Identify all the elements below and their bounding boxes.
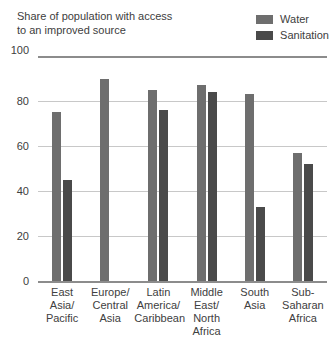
y-axis-tick-20: 20 [17, 230, 29, 242]
x-axis-label: South Asia [231, 286, 279, 312]
bar-group [245, 56, 265, 281]
y-axis-tick-40: 40 [17, 185, 29, 197]
bar-water [245, 94, 254, 281]
bar-water [100, 79, 109, 282]
y-axis-tick-100: 100 [11, 44, 29, 56]
legend-item-sanitation: Sanitation [256, 30, 329, 41]
plot-area: 020406080100 [38, 56, 327, 281]
legend-label-water: Water [280, 14, 309, 25]
bar-water [52, 112, 61, 281]
x-axis-label: Sub- Saharan Africa [279, 286, 327, 325]
x-axis-label: Middle East/ North Africa [183, 286, 231, 338]
legend-label-sanitation: Sanitation [280, 30, 329, 41]
bar-water [148, 90, 157, 281]
x-axis-label: Europe/ Central Asia [86, 286, 134, 325]
bars-layer [38, 56, 327, 281]
bar-sanitation [208, 92, 217, 281]
bar-group [293, 56, 313, 281]
legend-swatch-water [256, 15, 273, 24]
y-axis-tick-0: 0 [23, 275, 29, 287]
bar-sanitation [304, 164, 313, 281]
bar-group [148, 56, 168, 281]
legend-swatch-sanitation [256, 31, 273, 40]
bar-group [100, 56, 120, 281]
legend-item-water: Water [256, 14, 329, 25]
bar-sanitation [256, 207, 265, 281]
y-axis-tick-80: 80 [17, 95, 29, 107]
chart-container: Share of population with access to an im… [0, 0, 335, 352]
gridline-0 [38, 281, 327, 283]
bar-water [293, 153, 302, 281]
bar-sanitation [63, 180, 72, 281]
x-axis-label: Latin America/ Caribbean [134, 286, 182, 325]
chart-legend: Water Sanitation [256, 14, 329, 41]
bar-water [197, 85, 206, 281]
x-axis-label: East Asia/ Pacific [38, 286, 86, 325]
bar-sanitation [159, 110, 168, 281]
bar-group [197, 56, 217, 281]
bar-group [52, 56, 72, 281]
chart-title: Share of population with access to an im… [17, 10, 227, 37]
y-axis-tick-60: 60 [17, 140, 29, 152]
x-axis-labels: East Asia/ PacificEurope/ Central AsiaLa… [38, 286, 327, 350]
